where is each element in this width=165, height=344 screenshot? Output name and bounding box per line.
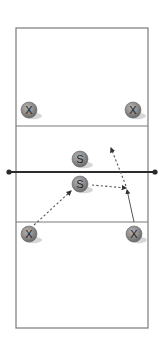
attack-over-net-arrow xyxy=(111,148,126,186)
player-x-bottom-right: X xyxy=(126,226,147,243)
player-s-top: S xyxy=(72,151,93,168)
player-label: S xyxy=(76,153,83,165)
hitter-approach-arrow xyxy=(127,190,134,222)
volleyball-court-diagram: XXSSXX xyxy=(0,0,165,344)
net-post-left xyxy=(6,169,11,174)
set-to-hitter-arrow xyxy=(92,185,126,188)
player-label: X xyxy=(25,104,33,116)
player-label: S xyxy=(76,178,83,190)
player-x-top-right: X xyxy=(125,102,146,119)
player-label: X xyxy=(129,104,137,116)
player-x-bottom-left: X xyxy=(21,226,42,243)
player-label: X xyxy=(130,228,138,240)
pass-to-setter-arrow xyxy=(34,191,71,225)
player-s-bottom: S xyxy=(72,176,93,193)
player-label: X xyxy=(25,228,33,240)
net-post-right xyxy=(152,169,157,174)
player-x-top-left: X xyxy=(21,102,42,119)
